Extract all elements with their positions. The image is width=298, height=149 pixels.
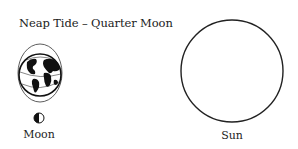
first-quarter-moon-icon [34,113,44,123]
sun-label: Sun [221,129,243,142]
sun-circle [181,20,283,122]
diagram-canvas [0,0,298,149]
earth-globe-icon [19,54,61,96]
moon-label: Moon [23,128,55,141]
